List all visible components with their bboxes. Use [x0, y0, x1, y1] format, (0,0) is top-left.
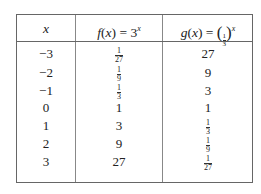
cell-x: 1: [17, 118, 75, 134]
f-arg: x: [106, 25, 112, 40]
fraction: 127: [115, 47, 123, 64]
fraction: 13: [117, 84, 121, 101]
f-name: f: [97, 25, 101, 40]
denominator: 27: [115, 56, 123, 64]
cell-f: 1: [76, 100, 162, 116]
header-f: f(x) = 3x: [76, 20, 162, 38]
f-exp: x: [137, 24, 141, 33]
denominator: 3: [206, 128, 210, 136]
fraction: 19: [117, 66, 121, 83]
numerator: 1: [206, 137, 210, 145]
cell-g: 27: [163, 46, 253, 62]
denominator: 27: [204, 164, 212, 172]
cell-f: 9: [76, 136, 162, 152]
exponential-values-table: x f(x) = 3x g(x) = (13)x −312727−2199−11…: [16, 14, 253, 183]
numerator: 1: [206, 119, 210, 127]
cell-g: 3: [163, 83, 253, 99]
g-arg: x: [192, 25, 198, 40]
cell-g: 9: [163, 65, 253, 81]
numerator: 1: [117, 47, 121, 55]
header-x: x: [17, 20, 75, 38]
fraction: 13: [206, 119, 210, 136]
cell-f: 127: [76, 46, 162, 62]
g-exp: x: [232, 24, 236, 33]
cell-g: 19: [163, 136, 253, 152]
fraction: 127: [204, 155, 212, 172]
f-eq: = 3: [116, 25, 137, 40]
cell-f: 19: [76, 65, 162, 81]
cell-x: −1: [17, 83, 75, 99]
cell-f: 3: [76, 118, 162, 134]
header-g: g(x) = (13)x: [163, 20, 253, 38]
fraction: 19: [206, 137, 210, 154]
cell-x: −2: [17, 65, 75, 81]
cell-x: 0: [17, 100, 75, 116]
cell-g: 13: [163, 118, 253, 134]
g-eq: =: [202, 25, 216, 40]
denominator: 9: [117, 75, 121, 83]
cell-g: 1: [163, 100, 253, 116]
numerator: 1: [206, 155, 210, 163]
numerator: 1: [117, 84, 121, 92]
cell-f: 27: [76, 154, 162, 170]
cell-g: 127: [163, 154, 253, 170]
cell-x: −3: [17, 46, 75, 62]
numerator: 1: [117, 66, 121, 74]
cell-x: 2: [17, 136, 75, 152]
denominator: 9: [206, 146, 210, 154]
g-name: g: [181, 25, 188, 40]
cell-x: 3: [17, 154, 75, 170]
cell-f: 13: [76, 83, 162, 99]
